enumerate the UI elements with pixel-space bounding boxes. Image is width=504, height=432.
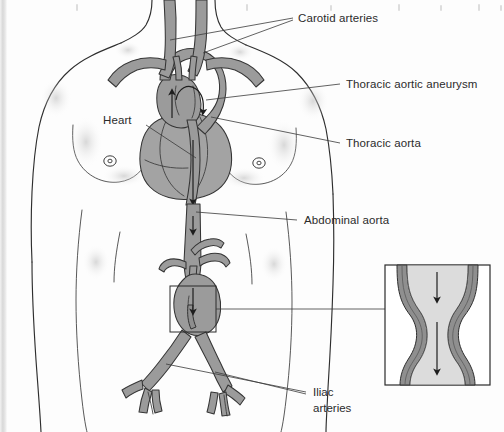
anatomy-diagram: Carotid arteries Thoracic aortic aneurys… xyxy=(0,0,504,432)
right-iliac-artery xyxy=(195,332,232,392)
label-thoracic-aorta: Thoracic aorta xyxy=(346,137,421,149)
nipple-marker xyxy=(104,156,116,166)
label-carotid-arteries: Carotid arteries xyxy=(298,12,378,24)
label-iliac-arteries-line2: arteries xyxy=(313,402,352,414)
nipple-marker-inner xyxy=(257,161,261,165)
label-heart: Heart xyxy=(103,114,132,126)
label-abdominal-aorta: Abdominal aorta xyxy=(304,214,390,226)
renal-artery-left xyxy=(159,259,186,272)
figure-root: Carotid arteries Thoracic aortic aneurys… xyxy=(0,0,504,432)
nipple-marker xyxy=(253,158,265,168)
aneurysm-inset xyxy=(385,265,490,385)
label-iliac-arteries-line1: Iliac xyxy=(313,386,334,398)
left-iliac-artery xyxy=(141,330,191,391)
renal-artery-right xyxy=(199,253,230,267)
abdominal-aorta xyxy=(122,204,245,416)
nipple-marker-inner xyxy=(108,159,112,163)
label-thoracic-aortic-aneurysm: Thoracic aortic aneurysm xyxy=(346,78,478,90)
